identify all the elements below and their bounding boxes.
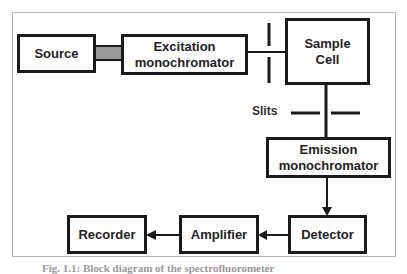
emission-label-line1: Emission xyxy=(279,142,379,158)
detector-label: Detector xyxy=(301,227,354,243)
excitation-label-line1: Excitation xyxy=(135,39,235,55)
source-label: Source xyxy=(34,46,78,62)
recorder-label: Recorder xyxy=(78,227,135,243)
arrow-left-icon xyxy=(258,230,267,240)
excitation-label-line2: monochromator xyxy=(135,55,235,71)
emission-label-line2: monochromator xyxy=(279,158,379,174)
amplifier-label: Amplifier xyxy=(191,227,247,243)
detector-box: Detector xyxy=(288,215,367,254)
figure-caption: Fig. 1.1: Block diagram of the spectrofl… xyxy=(42,262,274,274)
amplifier-box: Amplifier xyxy=(179,215,259,254)
sample-label-line2: Cell xyxy=(304,52,350,68)
arrow-left-icon xyxy=(146,230,156,240)
source-box: Source xyxy=(17,34,96,73)
sample-label-line1: Sample xyxy=(304,36,350,52)
slits-label: Slits xyxy=(252,104,277,118)
recorder-box: Recorder xyxy=(67,215,147,254)
emission-monochromator-box: Emission monochromator xyxy=(266,137,391,178)
light-beam xyxy=(95,46,122,60)
sample-cell-box: Sample Cell xyxy=(285,18,370,85)
excitation-monochromator-box: Excitation monochromator xyxy=(121,34,248,75)
